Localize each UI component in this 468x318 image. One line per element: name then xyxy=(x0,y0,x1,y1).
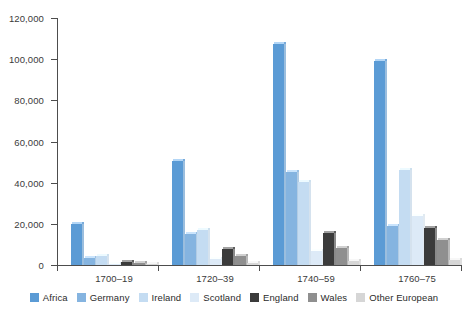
bar-face xyxy=(146,264,157,266)
bar-scotland-1700-19 xyxy=(109,264,120,266)
x-axis-category-label: 1760–75 xyxy=(398,273,436,284)
y-axis-tick-label: 80,000 xyxy=(14,95,44,106)
bar-face xyxy=(71,224,82,265)
plot-area xyxy=(57,18,461,265)
y-axis-tick-label: 100,000 xyxy=(9,54,44,65)
bar-side-edge xyxy=(258,261,260,265)
bar-face xyxy=(336,248,347,265)
bar-side-edge xyxy=(157,262,159,266)
bar-face xyxy=(399,170,410,265)
legend-label: Wales xyxy=(321,292,348,303)
bar-face xyxy=(84,258,95,265)
bar-germany-1760-75 xyxy=(387,226,398,265)
bar-germany-1740-59 xyxy=(286,172,297,265)
bar-face xyxy=(222,249,233,265)
legend-swatch-icon xyxy=(308,293,317,302)
bar-africa-1740-59 xyxy=(273,44,284,265)
bar-face xyxy=(96,256,107,265)
x-axis-category-label: 1740–59 xyxy=(297,273,335,284)
bar-ireland-1700-19 xyxy=(96,256,107,265)
y-axis-tick-label: 60,000 xyxy=(14,136,44,147)
bar-africa-1720-39 xyxy=(172,161,183,265)
bar-ireland-1720-39 xyxy=(197,230,208,265)
legend-item-germany[interactable]: Germany xyxy=(77,292,130,303)
legend-item-wales[interactable]: Wales xyxy=(308,292,348,303)
legend-item-scotland[interactable]: Scotland xyxy=(190,292,241,303)
x-axis-tick xyxy=(360,266,361,271)
y-axis-tick-label: 120,000 xyxy=(9,13,44,24)
bar-face xyxy=(374,61,385,265)
chart-legend: AfricaGermanyIrelandScotlandEnglandWales… xyxy=(0,292,468,303)
x-axis-tick xyxy=(461,266,462,271)
bar-side-edge xyxy=(359,259,361,265)
y-axis-tick-label: 20,000 xyxy=(14,218,44,229)
legend-item-africa[interactable]: Africa xyxy=(30,292,68,303)
bar-africa-1760-75 xyxy=(374,61,385,265)
bar-face xyxy=(437,240,448,265)
bar-germany-1700-19 xyxy=(84,258,95,265)
legend-item-england[interactable]: England xyxy=(250,292,299,303)
legend-swatch-icon xyxy=(30,293,39,302)
legend-item-ireland[interactable]: Ireland xyxy=(139,292,182,303)
bar-face xyxy=(185,234,196,265)
bar-face xyxy=(323,233,334,265)
x-axis-tick xyxy=(158,266,159,271)
legend-swatch-icon xyxy=(250,293,259,302)
bar-face xyxy=(424,228,435,265)
bar-face xyxy=(134,263,145,265)
x-axis-tick xyxy=(259,266,260,271)
bar-other-european-1700-19 xyxy=(146,264,157,266)
bar-face xyxy=(311,251,322,265)
bar-scotland-1720-39 xyxy=(210,259,221,265)
bar-wales-1720-39 xyxy=(235,256,246,265)
legend-swatch-icon xyxy=(356,293,365,302)
bar-other-european-1760-75 xyxy=(449,260,460,265)
bar-face xyxy=(109,264,120,266)
bar-face xyxy=(387,226,398,265)
bar-face xyxy=(449,260,460,265)
bar-side-edge xyxy=(460,258,462,265)
x-axis-category-label: 1700–19 xyxy=(95,273,133,284)
bar-scotland-1760-75 xyxy=(412,216,423,265)
y-axis-tick-label: 40,000 xyxy=(14,177,44,188)
bar-other-european-1740-59 xyxy=(348,261,359,265)
legend-label: Scotland xyxy=(203,292,241,303)
bar-scotland-1740-59 xyxy=(311,251,322,265)
bar-face xyxy=(286,172,297,265)
bar-chart: 020,00040,00060,00080,000100,000120,000 … xyxy=(0,0,468,318)
bar-face xyxy=(121,262,132,265)
x-axis-tick xyxy=(57,266,58,271)
x-axis-category-label: 1720–39 xyxy=(196,273,234,284)
legend-label: Africa xyxy=(43,292,68,303)
bar-africa-1700-19 xyxy=(71,224,82,265)
bar-face xyxy=(210,259,221,265)
legend-label: Other European xyxy=(369,292,438,303)
bar-ireland-1760-75 xyxy=(399,170,410,265)
bar-face xyxy=(298,182,309,265)
y-axis-tick-label: 0 xyxy=(39,260,44,271)
bar-wales-1760-75 xyxy=(437,240,448,265)
bar-face xyxy=(247,263,258,265)
legend-label: England xyxy=(263,292,299,303)
bar-england-1700-19 xyxy=(121,262,132,265)
legend-swatch-icon xyxy=(139,293,148,302)
bar-england-1720-39 xyxy=(222,249,233,265)
legend-swatch-icon xyxy=(77,293,86,302)
bar-wales-1700-19 xyxy=(134,263,145,265)
bar-face xyxy=(172,161,183,265)
legend-swatch-icon xyxy=(190,293,199,302)
bar-england-1760-75 xyxy=(424,228,435,265)
legend-label: Ireland xyxy=(152,292,182,303)
bar-england-1740-59 xyxy=(323,233,334,265)
legend-item-other-european[interactable]: Other European xyxy=(356,292,438,303)
bar-face xyxy=(235,256,246,265)
legend-label: Germany xyxy=(90,292,130,303)
bar-wales-1740-59 xyxy=(336,248,347,265)
bar-other-european-1720-39 xyxy=(247,263,258,265)
bar-face xyxy=(197,230,208,265)
bar-face xyxy=(412,216,423,265)
bar-face xyxy=(348,261,359,265)
bar-germany-1720-39 xyxy=(185,234,196,265)
bar-ireland-1740-59 xyxy=(298,182,309,265)
bar-face xyxy=(273,44,284,265)
